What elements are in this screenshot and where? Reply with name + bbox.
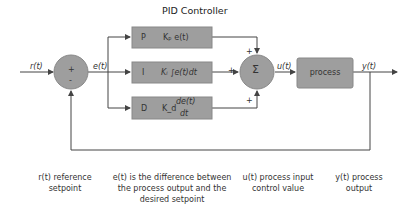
legend-e: e(t) is the difference between the proce…: [112, 172, 232, 205]
sigma-symbol: Σ: [252, 64, 259, 75]
d-letter: D: [141, 103, 147, 114]
legend-r: r(t) reference setpoint: [35, 172, 95, 194]
d-den: dt: [180, 108, 188, 119]
label-u: u(t): [277, 61, 291, 72]
p-letter: P: [141, 32, 146, 43]
junction1-plus: +: [68, 64, 75, 75]
label-y: y(t): [362, 61, 376, 72]
legend-y: y(t) process output: [332, 172, 386, 194]
junction1-minus: -: [69, 75, 72, 86]
i-letter: I: [142, 67, 144, 78]
junction2-plus-mid: +: [228, 65, 235, 76]
diagram-title: PID Controller: [162, 5, 228, 16]
label-e: e(t): [93, 61, 107, 72]
i-formula: Kᵢ ∫e(t)dt: [161, 67, 197, 78]
junction2-plus-top: +: [246, 46, 253, 57]
p-formula: Kₚ e(t): [163, 32, 189, 43]
d-gain: K_d: [162, 103, 176, 114]
process-label: process: [297, 67, 353, 78]
label-r: r(t): [30, 61, 43, 72]
junction2-plus-bottom: +: [246, 95, 253, 106]
d-num: de(t): [176, 96, 195, 107]
legend-u: u(t) process input control value: [238, 172, 318, 194]
